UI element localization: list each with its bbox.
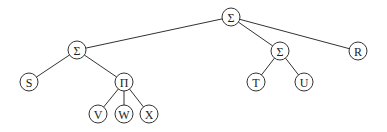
edge-prod-X: [130, 89, 144, 107]
node-S: S: [20, 73, 38, 91]
node-R: R: [349, 42, 367, 60]
tree-diagram: ΣΣSΠVWXΣTUR: [0, 0, 387, 132]
node-label: V: [94, 108, 103, 122]
edge-sum_left-prod: [84, 55, 116, 77]
node-label: Π: [120, 76, 129, 90]
node-sum_right: Σ: [271, 42, 289, 60]
node-label: Σ: [277, 45, 284, 59]
node-U: U: [295, 73, 313, 91]
edge-sum_left-S: [36, 55, 69, 77]
node-label: R: [354, 45, 362, 59]
node-label: Σ: [74, 44, 81, 58]
node-label: T: [252, 76, 260, 90]
node-T: T: [247, 73, 265, 91]
node-label: X: [145, 108, 154, 122]
node-V: V: [89, 105, 107, 123]
node-label: Σ: [228, 11, 235, 25]
node-X: X: [140, 105, 158, 123]
node-label: U: [300, 76, 309, 90]
tree-edges: [36, 19, 349, 107]
node-sum_left: Σ: [68, 41, 86, 59]
edge-root-sum_right: [238, 22, 272, 46]
edge-sum_right-U: [286, 58, 299, 75]
node-W: W: [115, 105, 133, 123]
node-prod: Π: [115, 73, 133, 91]
node-root: Σ: [222, 8, 240, 26]
node-label: W: [118, 108, 130, 122]
edge-sum_right-T: [262, 58, 275, 75]
node-label: S: [26, 76, 33, 90]
edge-root-sum_left: [86, 19, 222, 48]
edge-prod-V: [104, 89, 119, 107]
